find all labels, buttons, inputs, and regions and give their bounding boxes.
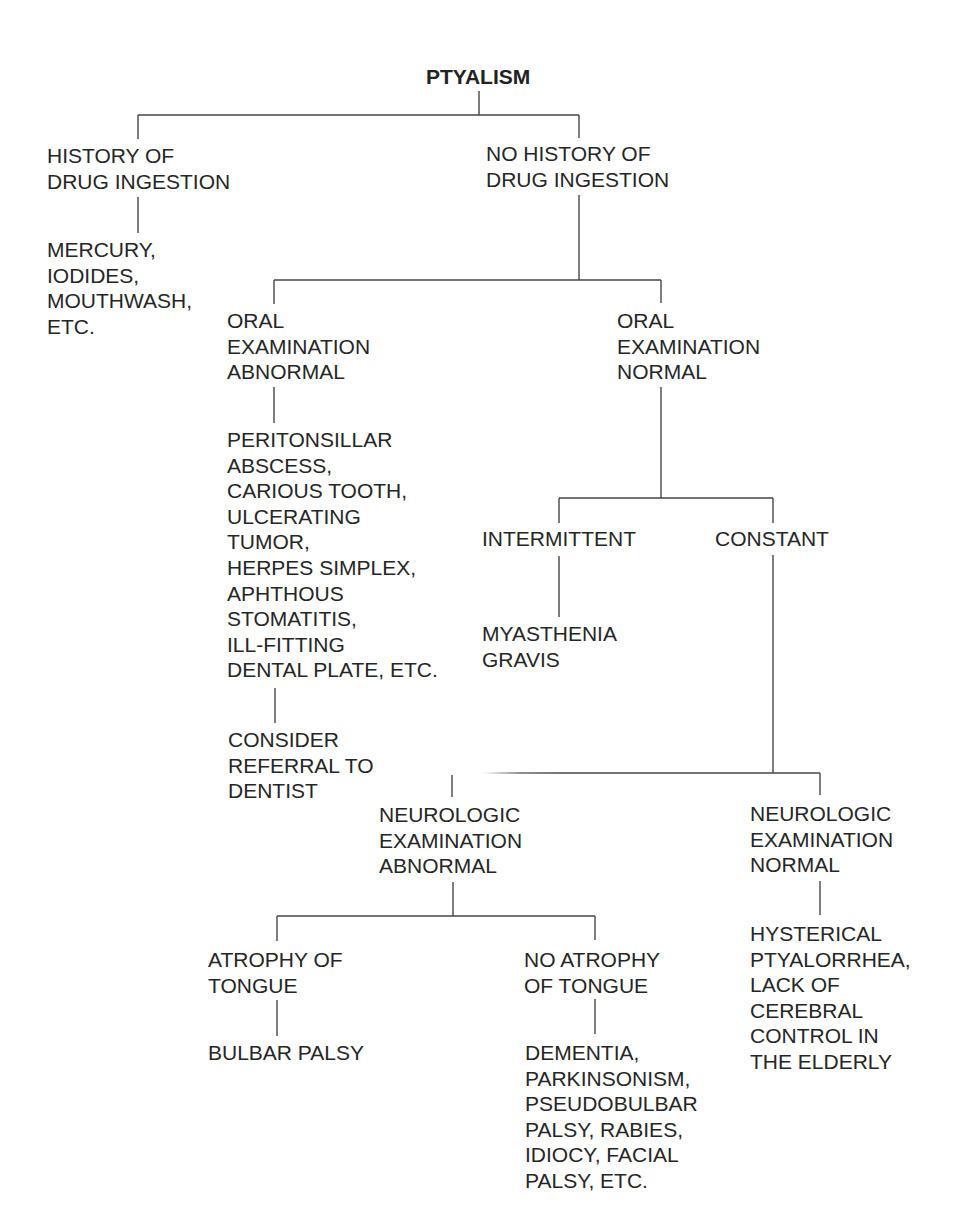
node-drug-causes: MERCURY, IODIDES, MOUTHWASH, ETC. — [47, 237, 192, 339]
node-no-tongue-atrophy: NO ATROPHY OF TONGUE — [524, 947, 660, 998]
node-constant: CONSTANT — [715, 526, 829, 552]
node-bulbar-palsy: BULBAR PALSY — [208, 1040, 364, 1066]
node-no-history-of-drug-ingestion: NO HISTORY OF DRUG INGESTION — [486, 141, 669, 192]
node-history-of-drug-ingestion: HISTORY OF DRUG INGESTION — [47, 143, 230, 194]
node-ptyalism-title: PTYALISM — [426, 64, 530, 90]
node-oral-exam-abnormal: ORAL EXAMINATION ABNORMAL — [227, 308, 370, 385]
node-neuro-exam-abnormal: NEUROLOGIC EXAMINATION ABNORMAL — [379, 802, 522, 879]
node-no-atrophy-causes: DEMENTIA, PARKINSONISM, PSEUDOBULBAR PAL… — [525, 1040, 698, 1194]
node-hysterical-ptyalorrhea: HYSTERICAL PTYALORRHEA, LACK OF CEREBRAL… — [750, 921, 911, 1075]
node-tongue-atrophy: ATROPHY OF TONGUE — [208, 947, 343, 998]
node-oral-abnormal-causes: PERITONSILLAR ABSCESS, CARIOUS TOOTH, UL… — [227, 427, 438, 683]
node-neuro-exam-normal: NEUROLOGIC EXAMINATION NORMAL — [750, 801, 893, 878]
node-oral-exam-normal: ORAL EXAMINATION NORMAL — [617, 308, 760, 385]
node-myasthenia-gravis: MYASTHENIA GRAVIS — [482, 621, 617, 672]
node-intermittent: INTERMITTENT — [482, 526, 636, 552]
flowchart-canvas: PTYALISM HISTORY OF DRUG INGESTION MERCU… — [0, 0, 959, 1222]
node-dentist-referral: CONSIDER REFERRAL TO DENTIST — [228, 727, 373, 804]
